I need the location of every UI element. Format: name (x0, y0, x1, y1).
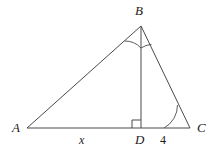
geometry-figure: A B C D x 4 (0, 0, 218, 152)
angle-arc-ABD-icon (125, 41, 141, 48)
segment-BC (141, 26, 190, 128)
vertex-label-B: B (135, 4, 143, 17)
vertex-label-C: C (197, 121, 206, 134)
vertex-label-D: D (135, 133, 144, 146)
triangle-diagram-canvas (0, 0, 218, 152)
vertex-label-A: A (12, 121, 20, 134)
right-angle-square-icon (132, 120, 141, 128)
segment-length-label-AD: x (79, 134, 84, 146)
segment-length-label-DC: 4 (160, 134, 166, 146)
segment-AB (27, 26, 141, 128)
angle-arc-DBC-icon (141, 44, 152, 48)
angle-arc-C-icon (164, 105, 178, 128)
